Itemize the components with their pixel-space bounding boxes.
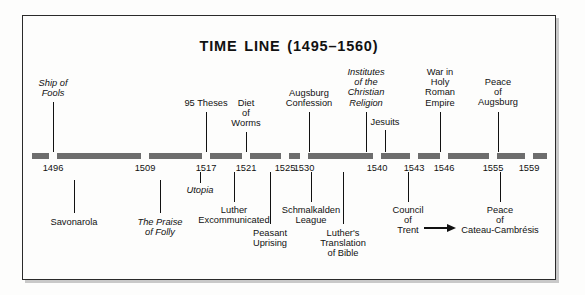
timeline-frame: TIME LINE (1495–1560) [22,15,556,280]
page-title: TIME LINE (1495–1560) [23,38,555,54]
timeline-page: TIME LINE (1495–1560) 149615091517152115… [0,0,585,295]
